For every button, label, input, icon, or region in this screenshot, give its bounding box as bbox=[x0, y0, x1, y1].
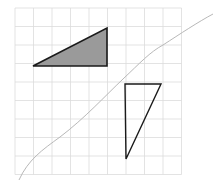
grid-diagram bbox=[0, 0, 216, 187]
shaded-triangle bbox=[33, 28, 107, 66]
diagonal-curve bbox=[19, 14, 213, 180]
outlined-triangle bbox=[125, 84, 161, 159]
diagram-canvas bbox=[0, 0, 216, 187]
